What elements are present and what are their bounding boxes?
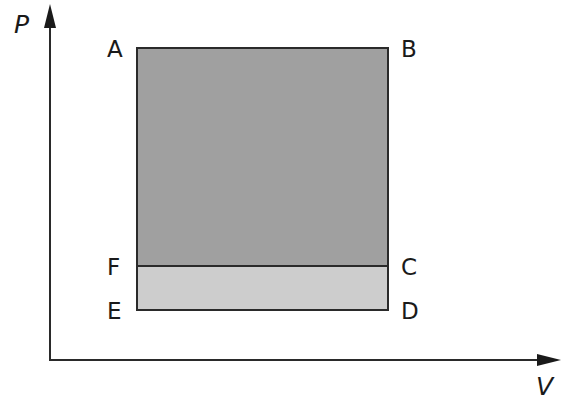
diagram-canvas xyxy=(0,0,578,408)
region-fcde xyxy=(137,266,388,310)
region-abcf xyxy=(137,48,388,266)
point-label-c: C xyxy=(401,256,417,279)
point-label-f: F xyxy=(107,256,120,279)
y-axis-label: P xyxy=(14,12,29,37)
point-label-d: D xyxy=(401,300,419,323)
x-axis-arrow-icon xyxy=(537,354,561,366)
x-axis-label: V xyxy=(536,374,553,399)
point-label-e: E xyxy=(107,300,122,323)
pv-diagram: P V A B F C E D xyxy=(0,0,578,408)
point-label-b: B xyxy=(401,38,417,61)
y-axis-arrow-icon xyxy=(44,4,56,28)
point-label-a: A xyxy=(107,38,123,61)
